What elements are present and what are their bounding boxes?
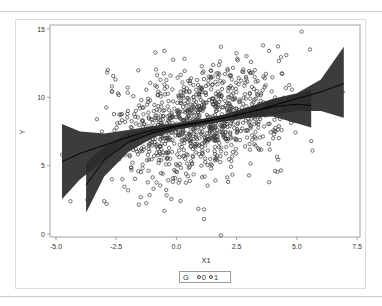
y-tick-label: 5 [41, 162, 45, 169]
scatter-chart: -5.0-2.50.02.55.07.5 051015 X1 Y [0, 0, 382, 306]
x-axis: -5.0-2.50.02.55.07.5 [50, 237, 362, 250]
x-tick-label: 0.0 [172, 243, 182, 250]
y-axis: 051015 [37, 26, 50, 238]
y-axis-label: Y [18, 129, 27, 134]
y-tick-label: 15 [37, 26, 45, 33]
legend-title: G [183, 273, 189, 282]
plot-area [50, 25, 360, 237]
x-tick-label: -2.5 [110, 243, 122, 250]
legend-item-g1: 1 [209, 273, 218, 282]
x-tick-label: -5.0 [50, 243, 62, 250]
legend: G 0 1 [179, 271, 231, 283]
circle-marker-icon [209, 275, 213, 279]
x-tick-label: 7.5 [352, 243, 362, 250]
x-tick-label: 5.0 [292, 243, 302, 250]
circle-marker-icon [197, 275, 201, 279]
y-tick-label: 0 [41, 231, 45, 238]
x-tick-label: 2.5 [232, 243, 242, 250]
legend-label: 0 [202, 273, 206, 282]
legend-item-g0: 0 [197, 273, 206, 282]
y-tick-label: 10 [37, 94, 45, 101]
x-axis-label: X1 [201, 256, 210, 265]
legend-label: 1 [214, 273, 218, 282]
